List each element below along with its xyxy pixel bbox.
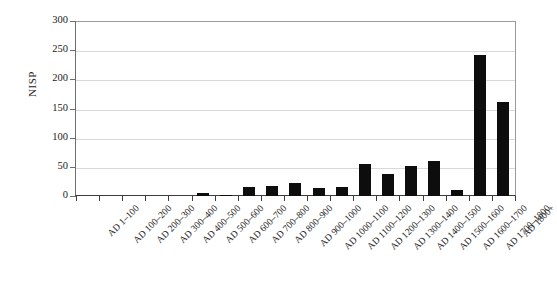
bar [428,161,440,196]
x-axis-tick [307,196,308,201]
y-axis-label: 0 [26,190,68,200]
bar [451,190,463,196]
y-axis-label: 200 [26,73,68,83]
y-axis-label: 250 [26,44,68,54]
bar [197,193,209,196]
y-axis-label-wrap: 250 [18,44,68,54]
y-axis-label: 150 [26,103,68,113]
x-axis-tick [238,196,239,201]
x-axis-tick [330,196,331,201]
bar [497,102,509,197]
y-axis-label-wrap: 200 [18,73,68,83]
bar [243,187,255,196]
x-axis-tick [122,196,123,201]
x-axis-tick [215,196,216,201]
x-axis-tick [168,196,169,201]
bar [382,174,394,196]
y-axis-label-wrap: 0 [18,190,68,200]
x-axis-tick [192,196,193,201]
y-axis-label: 50 [26,161,68,171]
bar [220,195,232,196]
x-axis-tick [515,196,516,201]
bar [405,166,417,196]
x-axis-tick [76,196,77,201]
y-axis-label-wrap: 50 [18,161,68,171]
x-axis-tick [376,196,377,201]
y-axis-label-wrap: 300 [18,15,68,25]
y-axis-label: 300 [26,15,68,25]
bar [336,187,348,196]
x-axis-tick [469,196,470,201]
bar [474,55,486,196]
y-axis-label-wrap: 100 [18,132,68,142]
bar [359,164,371,196]
x-axis-tick [261,196,262,201]
x-axis-tick [284,196,285,201]
x-axis-tick [99,196,100,201]
y-axis-label: 100 [26,132,68,142]
bar [266,186,278,197]
x-axis-tick [145,196,146,201]
x-axis-tick [399,196,400,201]
y-axis-label-wrap: 150 [18,103,68,113]
bar [289,183,301,196]
x-axis-tick [353,196,354,201]
x-axis-tick [423,196,424,201]
bars-layer [76,21,515,196]
bar [313,188,325,196]
x-axis-tick [446,196,447,201]
x-axis-tick [492,196,493,201]
